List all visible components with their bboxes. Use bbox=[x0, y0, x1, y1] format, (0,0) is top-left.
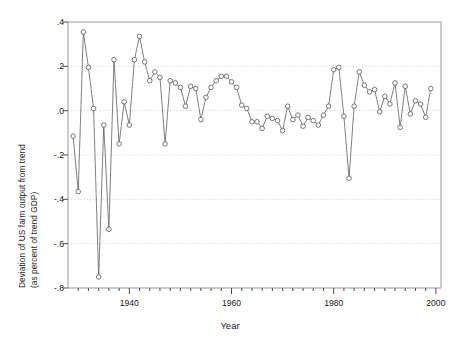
data-point-marker bbox=[296, 113, 301, 118]
data-point-marker bbox=[311, 118, 316, 123]
data-point-marker bbox=[245, 106, 250, 111]
data-point-marker bbox=[188, 84, 193, 89]
data-point-marker bbox=[193, 86, 198, 91]
data-point-marker bbox=[423, 115, 428, 120]
data-point-marker bbox=[301, 124, 306, 129]
data-point-marker bbox=[71, 134, 76, 139]
data-point-marker bbox=[342, 114, 347, 119]
data-point-marker bbox=[132, 57, 137, 62]
data-point-marker bbox=[112, 57, 117, 62]
series-line bbox=[73, 32, 431, 277]
farm-output-deviation-chart: Deviation of US farm output from trend (… bbox=[0, 0, 460, 349]
data-point-marker bbox=[372, 87, 377, 92]
data-point-marker bbox=[127, 123, 132, 128]
data-point-marker bbox=[199, 117, 204, 122]
data-point-marker bbox=[163, 142, 168, 147]
data-point-marker bbox=[393, 81, 398, 86]
data-point-marker bbox=[331, 67, 336, 72]
data-point-marker bbox=[255, 119, 260, 124]
data-point-marker bbox=[147, 78, 152, 83]
data-point-marker bbox=[76, 189, 81, 194]
data-point-marker bbox=[316, 123, 321, 128]
data-point-marker bbox=[214, 78, 219, 83]
data-point-marker bbox=[168, 78, 173, 83]
data-point-marker bbox=[260, 126, 265, 131]
data-point-marker bbox=[219, 74, 224, 79]
x-tick-label: 1980 bbox=[324, 298, 343, 308]
x-axis-label: Year bbox=[0, 320, 460, 331]
data-point-marker bbox=[270, 116, 275, 121]
data-point-marker bbox=[137, 34, 142, 39]
x-tick-label: 1940 bbox=[120, 298, 139, 308]
data-point-marker bbox=[239, 103, 244, 108]
data-point-marker bbox=[153, 70, 158, 75]
data-point-marker bbox=[101, 123, 106, 128]
data-point-marker bbox=[337, 65, 342, 70]
data-point-marker bbox=[388, 102, 393, 107]
data-point-marker bbox=[291, 117, 296, 122]
data-point-marker bbox=[250, 119, 255, 124]
data-point-marker bbox=[408, 112, 413, 117]
y-axis-ticks bbox=[63, 22, 68, 288]
series-path bbox=[73, 32, 431, 277]
data-point-marker bbox=[382, 94, 387, 99]
data-point-marker bbox=[122, 100, 127, 105]
data-point-marker bbox=[418, 102, 423, 107]
data-point-marker bbox=[229, 80, 234, 85]
data-point-marker bbox=[275, 118, 280, 123]
data-point-marker bbox=[352, 104, 357, 109]
data-point-marker bbox=[377, 109, 382, 114]
data-point-marker bbox=[158, 75, 163, 80]
data-point-marker bbox=[142, 60, 147, 65]
series-markers bbox=[71, 30, 433, 280]
data-point-marker bbox=[398, 125, 403, 130]
data-point-marker bbox=[86, 65, 91, 70]
data-point-marker bbox=[285, 104, 290, 109]
data-point-marker bbox=[367, 90, 372, 95]
data-point-marker bbox=[173, 81, 178, 86]
data-point-marker bbox=[347, 176, 352, 181]
data-point-marker bbox=[265, 114, 270, 119]
data-point-marker bbox=[178, 85, 183, 90]
data-point-marker bbox=[224, 74, 229, 79]
data-point-marker bbox=[403, 84, 408, 89]
x-tick-label: 1960 bbox=[222, 298, 241, 308]
gridlines bbox=[68, 66, 441, 243]
data-point-marker bbox=[183, 104, 188, 109]
data-point-marker bbox=[117, 142, 122, 147]
data-point-marker bbox=[321, 113, 326, 118]
data-point-marker bbox=[204, 95, 209, 100]
data-point-marker bbox=[107, 227, 112, 232]
data-point-marker bbox=[280, 128, 285, 133]
data-point-marker bbox=[326, 104, 331, 109]
data-point-marker bbox=[428, 86, 433, 91]
plot-canvas bbox=[0, 0, 460, 349]
x-axis-ticks bbox=[78, 288, 436, 294]
x-tick-label: 2000 bbox=[426, 298, 445, 308]
data-point-marker bbox=[306, 115, 311, 120]
data-point-marker bbox=[234, 85, 239, 90]
data-point-marker bbox=[413, 98, 418, 103]
data-point-marker bbox=[357, 70, 362, 75]
data-point-marker bbox=[81, 30, 86, 35]
data-point-marker bbox=[96, 275, 101, 280]
data-point-marker bbox=[91, 106, 96, 111]
data-point-marker bbox=[209, 85, 214, 90]
data-point-marker bbox=[362, 83, 367, 88]
